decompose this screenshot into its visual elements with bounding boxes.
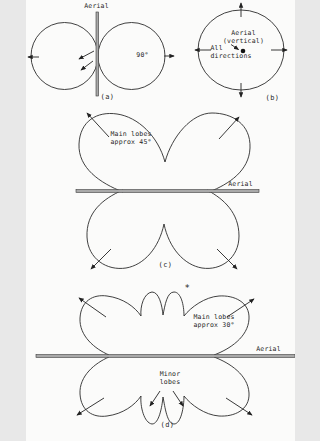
panel-c-caption: (c): [152, 261, 180, 270]
upper-right-lobe-arrow: [219, 117, 239, 139]
lower-lobes-outline: [86, 190, 238, 268]
panel-d-main-lobes-label: Main lobes approx 30°: [194, 313, 248, 329]
vertical-aerial-bar: [96, 12, 99, 96]
panel-a-aerial-label: Aerial: [75, 2, 119, 10]
panel-d-multi-lobe-pattern: [36, 292, 295, 424]
upper-left-main-lobe-arrow: [79, 298, 106, 317]
panel-c-main-lobes-label: Main lobes approx 45°: [111, 130, 161, 146]
horizontal-aerial-bar: [36, 355, 295, 358]
panel-d-caption: (d): [154, 421, 182, 430]
panel-d-minor-lobes-label: Minor lobes: [152, 370, 189, 386]
panel-a-angle-label: 90°: [130, 51, 156, 59]
panel-b-all-directions-label: All directions: [211, 44, 253, 60]
panel-d-aerial-label: Aerial: [252, 345, 286, 353]
panel-c-aerial-label: Aerial: [224, 180, 258, 188]
lower-lobes-outline: [79, 357, 248, 424]
minor-lobe-pointer-right: [173, 391, 183, 406]
radiation-pattern-figure: Aerial 90° (a) Aerial (vertical) All dir…: [26, 0, 295, 441]
null-pointer-arrow-upper: [79, 51, 94, 59]
upper-left-lobe-arrow: [87, 113, 109, 137]
panel-a-caption: (a): [94, 93, 122, 102]
panel-d-asterisk-marker: *: [185, 283, 195, 294]
horizontal-aerial-bar: [76, 190, 259, 193]
null-pointer-arrow-lower: [81, 61, 93, 70]
minor-lobe-pointer-left: [150, 391, 160, 406]
panel-b-caption: (b): [260, 94, 286, 103]
panel-c-four-lobe-pattern: [76, 113, 259, 269]
left-lobe-circle: [31, 23, 98, 90]
